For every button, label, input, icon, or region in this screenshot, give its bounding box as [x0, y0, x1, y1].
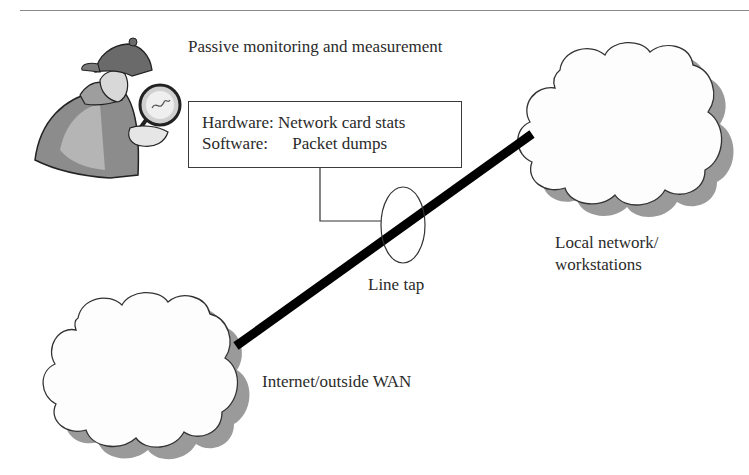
cloud-wan-icon	[43, 293, 249, 460]
software-key: Software:	[202, 133, 288, 154]
diagram-title: Passive monitoring and measurement	[188, 36, 442, 57]
tap-connector-line	[320, 168, 381, 221]
local-network-label: Local network/ workstations	[555, 232, 658, 276]
cloud-local-network-icon	[518, 43, 734, 217]
software-row: Software: Packet dumps	[202, 133, 461, 154]
wan-label: Internet/outside WAN	[262, 371, 411, 392]
local-network-line2: workstations	[555, 254, 658, 276]
local-network-line1: Local network/	[555, 232, 658, 254]
measurement-sources-box: Hardware: Network card stats Software: P…	[188, 101, 462, 168]
hardware-key: Hardware:	[202, 112, 274, 133]
detective-icon	[35, 38, 180, 178]
line-tap-label: Line tap	[368, 274, 424, 295]
software-value: Packet dumps	[292, 134, 387, 153]
hardware-row: Hardware: Network card stats	[202, 112, 461, 133]
hardware-value: Network card stats	[278, 113, 405, 132]
